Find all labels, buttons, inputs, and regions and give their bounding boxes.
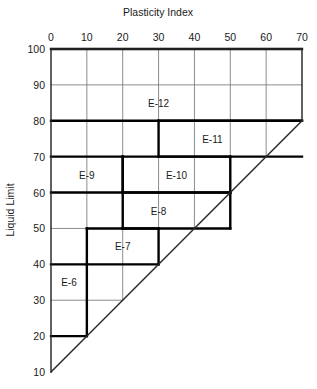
y-tick-label: 90 bbox=[33, 79, 45, 91]
y-tick-label: 80 bbox=[33, 115, 45, 127]
x-tick-label: 60 bbox=[260, 31, 272, 43]
y-tick-label: 70 bbox=[33, 151, 45, 163]
x-tick-label: 10 bbox=[81, 31, 93, 43]
y-tick-label: 40 bbox=[33, 258, 45, 270]
x-tick-label: 30 bbox=[153, 31, 165, 43]
x-tick-label: 0 bbox=[48, 31, 54, 43]
y-tick-label: 10 bbox=[33, 366, 45, 378]
y-tick-label: 100 bbox=[27, 43, 45, 55]
y-tick-label: 50 bbox=[33, 222, 45, 234]
y-tick-label: 60 bbox=[33, 187, 45, 199]
x-tick-label: 40 bbox=[189, 31, 201, 43]
zone-label-e-7: E-7 bbox=[115, 241, 131, 252]
zone-label-e-6: E-6 bbox=[61, 277, 77, 288]
zone-label-e-8: E-8 bbox=[151, 206, 167, 217]
chart-canvas: 010203040506070 102030405060708090100 E-… bbox=[0, 0, 317, 389]
zone-label-e-12: E-12 bbox=[148, 98, 170, 109]
y-tick-label: 30 bbox=[33, 294, 45, 306]
x-tick-label: 20 bbox=[117, 31, 129, 43]
plasticity-chart: 010203040506070 102030405060708090100 E-… bbox=[0, 0, 317, 389]
zone-label-e-9: E-9 bbox=[79, 170, 95, 181]
zone-label-e-10: E-10 bbox=[166, 170, 188, 181]
y-axis-title: Liquid Limit bbox=[4, 183, 16, 236]
x-tick-label: 50 bbox=[224, 31, 236, 43]
zone-label-e-11: E-11 bbox=[202, 134, 223, 145]
x-axis-title: Plasticity Index bbox=[123, 6, 194, 18]
x-tick-label: 70 bbox=[296, 31, 308, 43]
y-tick-label: 20 bbox=[33, 330, 45, 342]
